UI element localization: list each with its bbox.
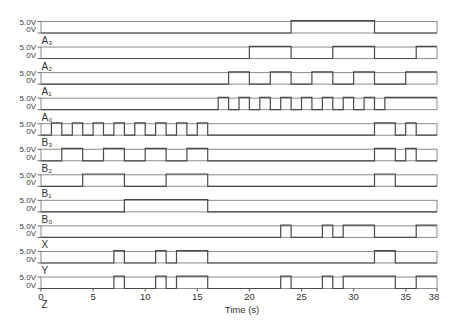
waveform-X <box>41 225 437 237</box>
trace-frame <box>41 175 437 187</box>
trace-A2: 5.0V0VA₂ <box>20 43 437 72</box>
x-tick-label: 5 <box>90 291 95 302</box>
waveform-Y <box>41 251 437 263</box>
trace-frame <box>41 277 437 289</box>
x-tick-label: 10 <box>140 291 151 302</box>
low-level-label: 0V <box>26 281 36 290</box>
waveform-B3 <box>41 123 437 135</box>
trace-A0: 5.0V0VA₀ <box>20 94 437 123</box>
trace-B3: 5.0V0VB₃ <box>20 120 437 149</box>
signal-label: B₃ <box>42 137 53 148</box>
trace-A3: 5.0V0VA₃ <box>20 18 437 47</box>
trace-Y: 5.0V0VY <box>20 247 437 276</box>
x-tick-label: 20 <box>244 291 255 302</box>
waveform-Z <box>41 276 437 288</box>
low-level-label: 0V <box>26 76 36 85</box>
x-tick-label: 35 <box>400 291 411 302</box>
low-level-label: 0V <box>26 51 36 60</box>
waveform-B2 <box>41 148 437 160</box>
waveform-A1 <box>41 72 437 84</box>
waveform-A0 <box>41 97 437 109</box>
waveform-A2 <box>41 46 437 58</box>
signal-label: A₃ <box>42 35 53 46</box>
signal-label: A₁ <box>42 86 53 97</box>
signal-label: B₁ <box>42 188 53 199</box>
trace-frame <box>41 226 437 238</box>
x-tick-label: 15 <box>192 291 203 302</box>
trace-frame <box>41 251 437 263</box>
time-axis: 0510152025303538 <box>38 289 439 302</box>
x-tick-label: 25 <box>296 291 307 302</box>
signal-label: A₀ <box>42 112 53 123</box>
low-level-label: 0V <box>26 204 36 213</box>
waveform-B1 <box>41 174 437 186</box>
x-tick-label: 38 <box>429 291 440 302</box>
x-tick-label: 30 <box>348 291 359 302</box>
trace-B0: 5.0V0VB₀ <box>20 196 437 225</box>
waveform-B0 <box>41 200 437 212</box>
trace-B1: 5.0V0VB₁ <box>20 171 437 200</box>
low-level-label: 0V <box>26 102 36 111</box>
waveform-A3 <box>41 21 437 33</box>
low-level-label: 0V <box>26 178 36 187</box>
signal-label: B₂ <box>42 163 53 174</box>
low-level-label: 0V <box>26 229 36 238</box>
trace-A1: 5.0V0VA₁ <box>20 69 437 98</box>
x-axis-title: Time (s) <box>225 304 259 315</box>
signal-label: X <box>42 239 49 250</box>
trace-B2: 5.0V0VB₂ <box>20 145 437 174</box>
trace-frame <box>41 149 437 161</box>
trace-frame <box>41 124 437 136</box>
x-tick-label: 0 <box>38 291 43 302</box>
trace-frame <box>41 73 437 85</box>
timing-diagram: 5.0V0VA₃5.0V0VA₂5.0V0VA₁5.0V0VA₀5.0V0VB₃… <box>0 0 456 329</box>
trace-frame <box>41 47 437 59</box>
signal-label: B₀ <box>42 214 53 225</box>
low-level-label: 0V <box>26 25 36 34</box>
trace-frame <box>41 22 437 34</box>
signal-label: A₂ <box>42 61 53 72</box>
trace-X: 5.0V0VX <box>20 222 437 251</box>
signal-label: Y <box>42 265 49 276</box>
low-level-label: 0V <box>26 153 36 162</box>
low-level-label: 0V <box>26 255 36 264</box>
signal-traces: 5.0V0VA₃5.0V0VA₂5.0V0VA₁5.0V0VA₀5.0V0VB₃… <box>20 18 437 311</box>
trace-frame <box>41 200 437 212</box>
low-level-label: 0V <box>26 127 36 136</box>
